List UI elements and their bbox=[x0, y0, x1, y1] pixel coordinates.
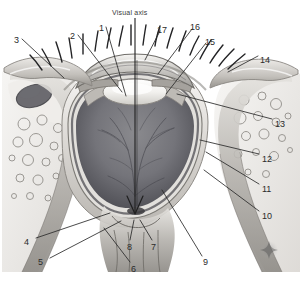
sparkle-star-icon bbox=[260, 241, 278, 259]
label-6: 6 bbox=[131, 265, 136, 274]
label-4: 4 bbox=[24, 238, 29, 247]
label-1: 1 bbox=[99, 24, 104, 33]
eye-cross-section-illustration bbox=[0, 0, 301, 281]
visual-axis-label: Visual axis bbox=[112, 9, 148, 16]
label-11: 11 bbox=[262, 185, 271, 194]
label-5: 5 bbox=[38, 258, 43, 267]
label-8: 8 bbox=[127, 243, 132, 252]
label-17: 17 bbox=[157, 26, 167, 35]
label-13: 13 bbox=[275, 120, 285, 129]
label-16: 16 bbox=[190, 23, 200, 32]
label-2: 2 bbox=[70, 32, 75, 41]
label-10: 10 bbox=[262, 212, 272, 221]
label-7: 7 bbox=[151, 243, 156, 252]
label-15: 15 bbox=[205, 38, 215, 47]
label-14: 14 bbox=[260, 56, 270, 65]
label-3: 3 bbox=[14, 36, 19, 45]
label-9: 9 bbox=[203, 258, 208, 267]
label-12: 12 bbox=[262, 155, 272, 164]
figure-canvas: Visual axis 1 2 3 4 5 6 7 8 9 10 11 12 1… bbox=[0, 0, 301, 281]
